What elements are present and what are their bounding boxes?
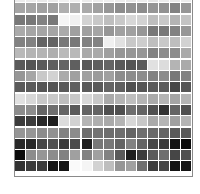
grid-cell	[26, 94, 36, 104]
grid-cell	[93, 116, 103, 126]
grid-cell	[37, 139, 47, 149]
grid-cell	[37, 37, 47, 47]
grid-cell	[137, 71, 147, 81]
grid-cell	[148, 3, 158, 13]
grid-cell	[170, 128, 180, 138]
grid-cell	[70, 71, 80, 81]
grid-cell	[26, 26, 36, 36]
grid-cell	[48, 71, 58, 81]
grid-cell	[37, 150, 47, 160]
grid-cell	[15, 60, 25, 70]
grid-cell	[170, 139, 180, 149]
grid-cell	[70, 105, 80, 115]
grid-cell	[126, 71, 136, 81]
grid-cell	[159, 82, 169, 92]
grid-cell	[93, 150, 103, 160]
grid-cell	[26, 48, 36, 58]
grid-cell	[181, 94, 191, 104]
grid-cell	[148, 116, 158, 126]
grid-cell	[37, 161, 47, 171]
grid-cell	[148, 0, 158, 2]
grid-cell	[148, 105, 158, 115]
grid-cell	[26, 60, 36, 70]
grid-cell	[48, 37, 58, 47]
grid-cell	[82, 161, 92, 171]
grid-cell	[115, 3, 125, 13]
grid-cell	[82, 37, 92, 47]
grid-cell	[115, 0, 125, 2]
grid-cell	[104, 116, 114, 126]
grid-cell	[26, 3, 36, 13]
grid-cell	[181, 37, 191, 47]
grid-cell	[170, 48, 180, 58]
grid-cell	[126, 139, 136, 149]
grid-cell	[159, 150, 169, 160]
grid-cell	[59, 139, 69, 149]
grid-cell	[59, 116, 69, 126]
grid-cell	[70, 94, 80, 104]
grid-cell	[82, 3, 92, 13]
grid-cell	[70, 37, 80, 47]
grid-cell	[15, 26, 25, 36]
grid-cell	[148, 60, 158, 70]
grid-cell	[15, 161, 25, 171]
grid-cell	[126, 48, 136, 58]
grid-cell	[104, 48, 114, 58]
grid-cell	[137, 15, 147, 25]
grid-cell	[159, 15, 169, 25]
grid-cell	[82, 71, 92, 81]
grid-cell	[15, 139, 25, 149]
grid-cell	[159, 0, 169, 2]
grid-cell	[137, 150, 147, 160]
grid-cell	[115, 37, 125, 47]
grid-cell	[115, 94, 125, 104]
grid-cell	[48, 15, 58, 25]
grid-cell	[159, 94, 169, 104]
grid-cell	[159, 105, 169, 115]
grid-cell	[115, 128, 125, 138]
grid-cell	[115, 161, 125, 171]
grid-cell	[104, 37, 114, 47]
grid-cell	[170, 94, 180, 104]
grid-cell	[137, 60, 147, 70]
grid-cell	[59, 150, 69, 160]
grid-cell	[93, 48, 103, 58]
grid-cell	[15, 48, 25, 58]
grid-cell	[137, 3, 147, 13]
grid-cell	[93, 94, 103, 104]
grid-cell	[181, 48, 191, 58]
grid-cell	[137, 116, 147, 126]
grid-cell	[70, 26, 80, 36]
grid-cell	[93, 71, 103, 81]
grid-cell	[170, 3, 180, 13]
grid-cell	[126, 94, 136, 104]
grid-cell	[26, 116, 36, 126]
grid-cell	[126, 0, 136, 2]
grid-cell	[93, 105, 103, 115]
grid-cell	[37, 71, 47, 81]
grid-cell	[148, 37, 158, 47]
grid-cell	[70, 0, 80, 2]
grid-cell	[59, 94, 69, 104]
grid-cell	[126, 105, 136, 115]
grid-cell	[181, 82, 191, 92]
grid-cell	[104, 150, 114, 160]
grid-cell	[148, 82, 158, 92]
grid-cell	[181, 15, 191, 25]
grid-cell	[26, 37, 36, 47]
grid-cell	[93, 26, 103, 36]
grid-cell	[15, 15, 25, 25]
grid-cell	[59, 82, 69, 92]
grid-cell	[170, 0, 180, 2]
grid-cell	[115, 26, 125, 36]
grid-cell	[37, 116, 47, 126]
grid-cell	[26, 71, 36, 81]
grid-cell	[82, 94, 92, 104]
grid-cell	[170, 26, 180, 36]
grid-cell	[82, 48, 92, 58]
grid-cell	[37, 60, 47, 70]
grid-cell	[148, 48, 158, 58]
grid-cell	[70, 150, 80, 160]
grid-cell	[37, 15, 47, 25]
grid-cell	[115, 105, 125, 115]
